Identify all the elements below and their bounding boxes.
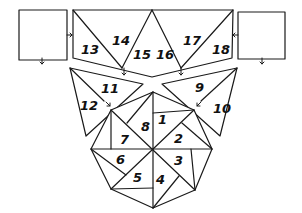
piece-label: 12 (80, 98, 98, 113)
piece-label: 10 (213, 101, 231, 116)
piece-label: 2 (174, 131, 183, 146)
piece-label: 8 (141, 119, 150, 134)
right-square (233, 12, 285, 64)
piece-label: 3 (174, 153, 183, 168)
piece-label: 15 (133, 47, 151, 62)
arrow-left-icon (233, 33, 238, 37)
piece-label: 14 (112, 33, 130, 48)
piece-label: 13 (81, 42, 99, 57)
piece-label: 7 (120, 132, 130, 147)
piece-label: 9 (195, 80, 204, 95)
piece-label: 11 (101, 81, 119, 96)
piece-label: 1 (158, 112, 167, 127)
piece-label: 18 (212, 42, 230, 57)
piece-label: 17 (183, 33, 202, 48)
left-square (19, 10, 72, 64)
piece-label: 16 (156, 47, 174, 62)
piece-label: 4 (155, 172, 165, 187)
pattern-diagram: 1 2 3 4 5 6 7 8 9 10 11 12 13 14 15 16 1… (0, 0, 302, 213)
piece-label: 5 (133, 170, 142, 185)
piece-label: 6 (116, 152, 125, 167)
arrow-right-icon (67, 33, 72, 37)
